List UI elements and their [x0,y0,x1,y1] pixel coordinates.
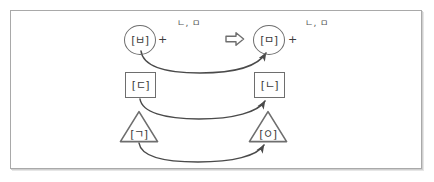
node-right-triangle-glyph: [ㅇ] [259,129,277,140]
transform-arrow-icon [225,31,245,47]
left-plus-sign: + [158,34,167,45]
node-left-triangle[interactable]: [ㄱ] [119,110,159,143]
node-right-circle-glyph: [ㅁ] [260,35,278,46]
right-side-label: ㄴ, ㅁ [305,19,329,28]
node-left-square[interactable]: [ㄷ] [125,72,156,98]
node-left-circle[interactable]: [ㅂ] [124,25,156,55]
figure-frame [10,10,422,169]
node-left-triangle-glyph: [ㄱ] [130,129,148,140]
node-left-square-glyph: [ㄷ] [132,80,150,91]
node-right-triangle[interactable]: [ㅇ] [248,110,288,143]
node-right-square-glyph: [ㄴ] [261,80,279,91]
node-left-circle-glyph: [ㅂ] [131,35,149,46]
node-right-square[interactable]: [ㄴ] [254,72,285,98]
right-plus-sign: + [288,34,297,45]
node-right-circle[interactable]: [ㅁ] [253,25,285,55]
left-side-label: ㄴ, ㅁ [177,19,201,28]
